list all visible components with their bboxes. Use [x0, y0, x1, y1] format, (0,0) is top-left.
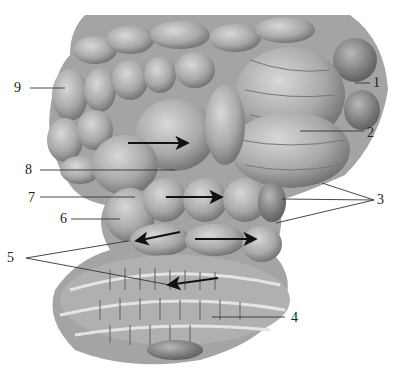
leader-line-3 — [322, 183, 374, 200]
label-1: 1 — [373, 76, 380, 90]
label-8: 8 — [25, 163, 32, 177]
label-5: 5 — [7, 251, 14, 265]
leader-line-3 — [282, 199, 374, 200]
leader-line-3 — [276, 200, 374, 223]
specimen-mass — [47, 15, 388, 364]
label-4: 4 — [291, 311, 298, 325]
label-3: 3 — [377, 193, 384, 207]
label-6: 6 — [60, 212, 67, 226]
label-7: 7 — [28, 191, 35, 205]
label-9: 9 — [14, 81, 21, 95]
label-2: 2 — [367, 126, 374, 140]
specimen-figure — [0, 0, 397, 383]
